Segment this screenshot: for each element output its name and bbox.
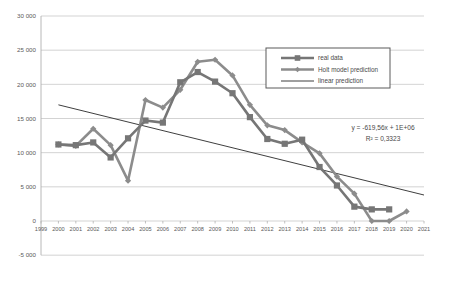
x-axis-tick-label: 2010 [226,226,238,232]
x-axis-tick-label: 2008 [191,226,203,232]
x-axis-tick-label: 2009 [209,226,221,232]
x-axis-tick-label: 2003 [104,226,116,232]
x-axis-tick-label: 2015 [313,226,325,232]
x-axis-tick-label: 2004 [122,226,134,232]
line-chart: -5 00005 00010 00015 00020 00025 00030 0… [0,0,452,286]
x-axis-tick-label: 2019 [383,226,395,232]
x-axis-tick-label: 2018 [366,226,378,232]
x-axis-tick-label: 2021 [418,226,430,232]
real-data-marker [90,139,96,145]
x-axis-tick-label: 2005 [139,226,151,232]
real-data-marker [299,137,305,143]
trendline-equation-label: y = -619,56x + 1E+06 [351,124,415,132]
y-axis-tick-label: 30 000 [17,12,36,19]
chart-background [0,0,452,286]
real-data-marker [334,182,340,188]
real-data-marker [177,79,183,85]
x-axis-tick-label: 2011 [244,226,256,232]
y-axis-tick-label: 0 [33,217,37,224]
x-axis-tick-label: 2000 [52,226,64,232]
chart-legend: real dataHolt model predictionlinear pre… [266,48,390,88]
real-data-marker [282,141,288,147]
real-data-marker [108,154,114,160]
x-axis-tick-label: 2016 [331,226,343,232]
real-data-marker [125,135,131,141]
real-data-marker [142,117,148,123]
y-axis-tick-label: 5 000 [21,183,37,190]
real-data-marker [229,90,235,96]
legend-item-label: real data [318,54,343,61]
real-data-marker [195,69,201,75]
x-axis-tick-label: 2007 [174,226,186,232]
chart-container: -5 00005 00010 00015 00020 00025 00030 0… [0,0,452,286]
x-axis-tick-label: 2014 [296,226,308,232]
real-data-marker [369,206,375,212]
x-axis-tick-label: 2002 [87,226,99,232]
y-axis-tick-label: 10 000 [17,149,36,156]
y-axis-tick-label: 25 000 [17,46,36,53]
x-axis-tick-label: 2013 [279,226,291,232]
legend-item-label: Holt model prediction [318,66,378,74]
real-data-marker [160,120,166,126]
x-axis-tick-label: 1999 [35,226,47,232]
x-axis-tick-label: 2001 [70,226,82,232]
real-data-marker [73,142,79,148]
real-data-marker [351,204,357,210]
real-data-marker [316,164,322,170]
y-axis-tick-label: 20 000 [17,81,36,88]
y-axis-tick-label: -5 000 [18,251,36,258]
real-data-marker [264,136,270,142]
legend-item-label: linear prediction [318,77,364,85]
x-axis-tick-label: 2012 [261,226,273,232]
x-axis-tick-label: 2006 [157,226,169,232]
real-data-marker [212,79,218,85]
real-data-marker [247,114,253,120]
real-data-marker [55,141,61,147]
real-data-marker [386,206,392,212]
y-axis-tick-label: 15 000 [17,115,36,122]
x-axis-tick-label: 2017 [348,226,360,232]
r-squared-label: R² = 0,3323 [366,135,401,142]
x-axis-tick-label: 2020 [400,226,412,232]
x-axis-tick-labels: 1999200020012002200320042005200620072008… [35,226,430,232]
legend-marker-square [295,55,301,61]
